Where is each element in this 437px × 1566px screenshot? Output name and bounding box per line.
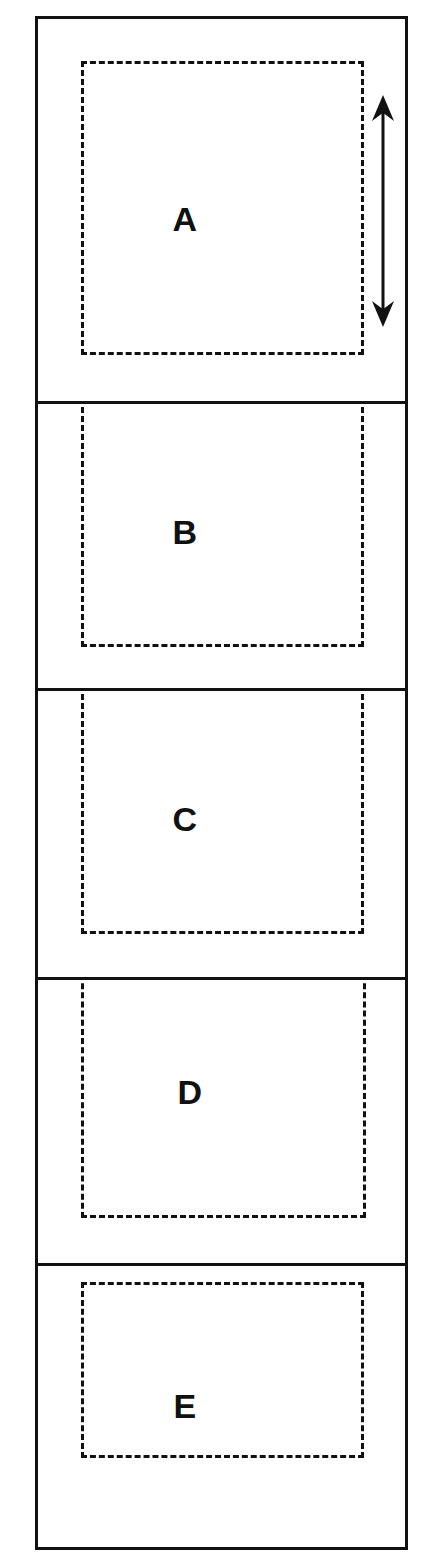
panel-label-d: D — [177, 1075, 202, 1109]
panel-a: A — [38, 19, 405, 401]
dashed-region-b — [81, 401, 364, 647]
panel-label-b: B — [172, 515, 197, 549]
dashed-region-e — [81, 1282, 364, 1458]
panel-c: C — [38, 688, 405, 977]
dashed-region-c — [81, 688, 364, 934]
panel-stack-frame: A B C D E — [35, 16, 408, 1550]
panel-label-c: C — [172, 802, 197, 836]
figure-root: A B C D E — [0, 0, 437, 1566]
panel-e: E — [38, 1263, 405, 1553]
panel-d: D — [38, 977, 405, 1263]
dashed-region-d — [81, 977, 366, 1218]
panel-label-a: A — [172, 202, 197, 236]
panel-b: B — [38, 401, 405, 688]
dashed-region-a — [81, 61, 364, 355]
panel-label-e: E — [173, 1389, 196, 1423]
